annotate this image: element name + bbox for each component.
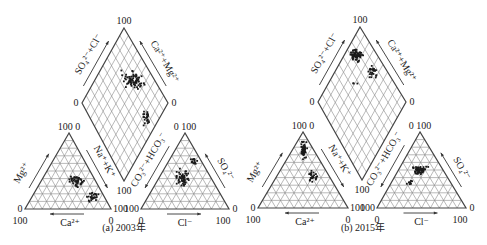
sample-point [359, 51, 361, 53]
sample-point [120, 70, 122, 72]
sample-point [422, 171, 424, 173]
sample-point [92, 197, 94, 199]
sample-point [369, 73, 371, 75]
sample-point [176, 183, 178, 185]
sample-point [356, 56, 358, 58]
sample-point [371, 74, 373, 76]
sample-point [301, 152, 303, 154]
sample-point [146, 111, 148, 113]
diamond-right-tick: 0 [172, 97, 177, 108]
sample-point [176, 177, 178, 179]
so4-axis-label: SO₄²⁻ [451, 155, 473, 182]
sample-point [142, 113, 144, 115]
sample-point [419, 169, 421, 171]
anion-left-end-tick: 100 [360, 202, 375, 213]
sample-point [424, 168, 426, 170]
sample-point [141, 75, 143, 77]
diamond-top-tick: 100 [353, 14, 368, 25]
sample-point [86, 196, 88, 198]
sample-point [300, 143, 302, 145]
sample-point [69, 181, 71, 183]
sample-point [353, 58, 355, 60]
sample-point [356, 51, 358, 53]
sample-point [144, 84, 146, 86]
sample-point [303, 153, 305, 155]
nak-axis-label: Na⁺+K⁺ [327, 143, 354, 179]
sample-point [196, 160, 198, 162]
cation-left-zero-tick: 0 [251, 202, 256, 213]
sample-point [143, 111, 145, 113]
sample-point [184, 171, 186, 173]
anion-right-end-tick: 0 [470, 202, 475, 213]
sample-point [181, 180, 183, 182]
sample-point [412, 166, 414, 168]
diamond-right-tick: 0 [410, 96, 415, 107]
ca-axis-label: Ca²⁺ [60, 217, 79, 228]
sample-point [128, 76, 130, 78]
sample-point [72, 182, 74, 184]
sample-point [420, 166, 422, 168]
sample-point [305, 157, 307, 159]
sample-point [74, 177, 76, 179]
sample-point [126, 76, 128, 78]
sample-point [425, 166, 427, 168]
cation-bottom-left-tick: 100 [246, 214, 261, 225]
cl-axis-label: Cl⁻ [178, 217, 193, 228]
panel-2003: 10000100SO₄²⁻+Cl⁻Ca²⁺+Mg²⁺100 001000100M… [11, 15, 237, 234]
anion-apex-tick: 0 100 [409, 120, 432, 131]
sample-point [178, 172, 180, 174]
sample-point [135, 76, 137, 78]
mg-arrow [262, 153, 282, 187]
sample-point [181, 175, 183, 177]
sample-point [125, 79, 127, 81]
sample-point [144, 119, 146, 121]
sample-point [301, 141, 303, 143]
sample-point [353, 83, 355, 85]
sample-point [370, 76, 372, 78]
sample-point [358, 61, 360, 63]
mg-arrow [29, 154, 49, 188]
sample-point [77, 186, 79, 188]
sample-point [193, 159, 195, 161]
sample-point [69, 178, 71, 180]
sample-point [306, 147, 308, 149]
sample-point [125, 74, 127, 76]
sample-point [89, 193, 91, 195]
diamond-left-tick: 0 [74, 97, 79, 108]
piper-figure: 10000100SO₄²⁻+Cl⁻Ca²⁺+Mg²⁺100 001000100M… [0, 0, 487, 245]
cl-arrow-head [197, 212, 201, 215]
sample-point [96, 196, 98, 198]
sample-point [194, 162, 196, 164]
sample-point [176, 171, 178, 173]
sample-point [183, 178, 185, 180]
sample-point [356, 49, 358, 51]
sample-point [132, 77, 134, 79]
sample-point [128, 81, 130, 83]
sample-point [97, 193, 99, 195]
ca-axis-label: Ca²⁺ [295, 216, 314, 227]
sample-point [312, 176, 314, 178]
sample-point [409, 183, 411, 185]
sample-point [70, 176, 72, 178]
sample-point [352, 52, 354, 54]
sample-point [374, 70, 376, 72]
sample-point [311, 181, 313, 183]
sample-point [78, 178, 80, 180]
sample-point [90, 199, 92, 201]
sample-point [187, 178, 189, 180]
sample-point [410, 180, 412, 182]
diamond-bottom-tick: 100 [355, 184, 370, 195]
sample-point [138, 77, 140, 79]
sample-point [414, 170, 416, 172]
sample-point [95, 199, 97, 201]
nak-axis-label: Na⁺+K⁺ [92, 143, 119, 179]
sample-point [191, 161, 193, 163]
cl-arrow-head [434, 211, 438, 214]
sample-point [125, 76, 127, 78]
sample-point [416, 173, 418, 175]
sample-point [371, 65, 373, 67]
sample-point [176, 175, 178, 177]
sample-point [375, 74, 377, 76]
sample-point [185, 173, 187, 175]
ca-arrow-head [50, 212, 54, 215]
